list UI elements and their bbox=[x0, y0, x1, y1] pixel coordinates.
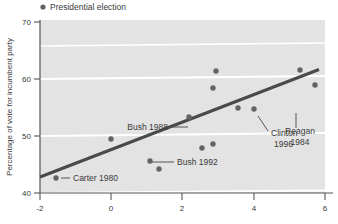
y-tick-label-40: 40 bbox=[22, 189, 31, 198]
x-tick-label-0: 0 bbox=[109, 204, 114, 213]
data-point bbox=[235, 105, 240, 110]
annotation-reagan-1984-line1: Reagan bbox=[285, 126, 315, 136]
y-axis-ticks bbox=[34, 22, 40, 193]
data-point-clinton-1996 bbox=[251, 106, 256, 111]
data-point bbox=[199, 145, 204, 150]
y-tick-label-50: 50 bbox=[22, 132, 31, 141]
data-point-reagan-1984 bbox=[312, 82, 317, 87]
y-tick-label-70: 70 bbox=[22, 18, 31, 27]
x-tick-label-2: 2 bbox=[180, 204, 185, 213]
data-point-bush-1988 bbox=[186, 114, 191, 119]
x-tick-label-4: 4 bbox=[252, 204, 257, 213]
data-point bbox=[297, 67, 302, 72]
presidential-election-scatter-chart: 40 50 60 70 -2 0 2 4 6 Percentage of vot… bbox=[0, 0, 338, 224]
data-point-bush-1992 bbox=[147, 158, 152, 163]
legend-marker-icon bbox=[40, 4, 45, 9]
x-tick-label-minus2: -2 bbox=[36, 204, 44, 213]
data-point bbox=[210, 141, 215, 146]
data-point bbox=[213, 68, 218, 73]
x-axis-ticks bbox=[40, 193, 325, 200]
x-tick-label-6: 6 bbox=[323, 204, 328, 213]
y-tick-label-60: 60 bbox=[22, 75, 31, 84]
data-point bbox=[210, 85, 215, 90]
annotation-bush-1988: Bush 1988 bbox=[127, 122, 168, 132]
data-point-carter-1980 bbox=[53, 175, 58, 180]
annotation-bush-1992: Bush 1992 bbox=[177, 157, 218, 167]
data-point bbox=[108, 136, 113, 141]
annotation-reagan-1984-line2: 1984 bbox=[291, 137, 310, 147]
y-axis-title: Percentage of vote for incumbent party bbox=[5, 38, 14, 176]
legend-label-presidential-election: Presidential election bbox=[50, 2, 126, 12]
annotation-carter-1980: Carter 1980 bbox=[73, 173, 118, 183]
data-point bbox=[156, 166, 161, 171]
